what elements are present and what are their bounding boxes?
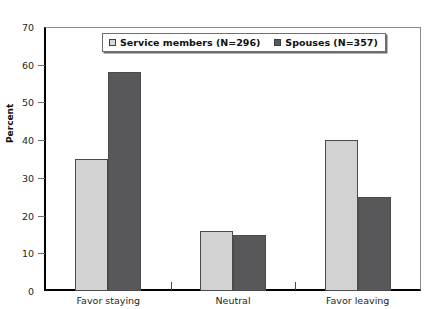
- legend-item: Spouses (N=357): [274, 37, 377, 48]
- legend-item-label: Service members (N=296): [120, 37, 260, 48]
- y-axis-tick: [38, 140, 45, 141]
- y-axis-title: Percent: [5, 127, 15, 143]
- y-axis-tick-label-text: 40: [22, 135, 34, 146]
- y-axis-tick-label-text: 50: [22, 97, 34, 108]
- y-axis-tick-label-text: 20: [22, 211, 34, 222]
- legend-swatch-icon: [109, 39, 116, 46]
- y-axis-tick-label-text: 70: [22, 22, 34, 33]
- y-axis-tick: [38, 102, 45, 103]
- x-axis-tick: [295, 282, 296, 290]
- legend-swatch-icon: [274, 39, 281, 46]
- y-axis-tick: [38, 65, 45, 66]
- y-axis-tick: [38, 253, 45, 254]
- legend-item-label: Spouses (N=357): [285, 37, 377, 48]
- x-axis-category-label: Favor staying: [77, 295, 141, 306]
- chart-legend: Service members (N=296)Spouses (N=357): [102, 33, 386, 52]
- y-axis-tick-label-text: 30: [22, 173, 34, 184]
- y-axis-tick-label-text: 60: [22, 60, 34, 71]
- x-axis-tick: [171, 282, 172, 290]
- y-axis-tick: [38, 178, 45, 179]
- y-axis-tick: [38, 216, 45, 217]
- y-axis-tick-label-text: 0: [28, 286, 34, 297]
- y-axis-tick-label-text: 10: [22, 248, 34, 259]
- bar-chart: Percent 010203040506070 Favor stayingNeu…: [0, 0, 433, 309]
- x-axis-category-label: Favor leaving: [326, 295, 389, 306]
- x-axis-category-label: Neutral: [215, 295, 250, 306]
- legend-item: Service members (N=296): [109, 37, 260, 48]
- plot-area: [44, 27, 421, 291]
